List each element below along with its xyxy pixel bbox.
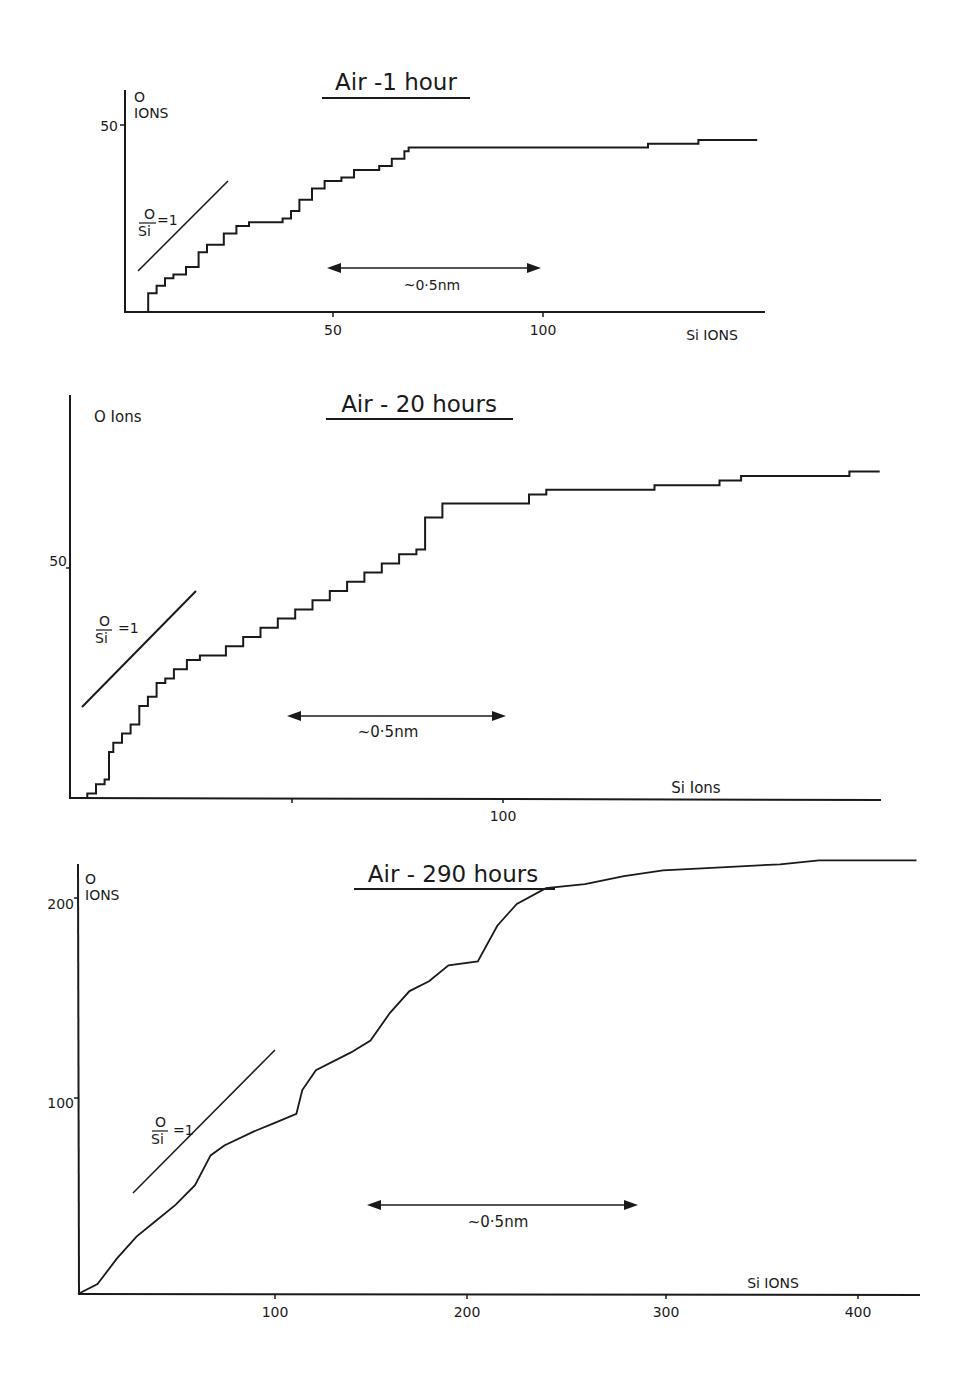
x-axis	[78, 1294, 920, 1295]
x-tick-label: 100	[262, 1304, 289, 1320]
y-tick-label: 100	[47, 1095, 74, 1111]
arrow-right-icon	[492, 711, 506, 721]
x-tick-label: 300	[653, 1304, 680, 1320]
y-tick-label: 50	[49, 553, 67, 569]
ratio-equals: =1	[157, 212, 178, 228]
y-axis-label: O	[85, 871, 96, 887]
figure-canvas: Air -1 hour O IONS 50 50 100 Si IONS O S…	[0, 0, 968, 1377]
panel-air-290-hours: Air - 290 hours O IONS 200 100 100 200 3…	[47, 860, 920, 1320]
arrow-left-icon	[367, 1200, 381, 1210]
x-axis-label: Si Ions	[671, 779, 721, 797]
chart-title: Air - 20 hours	[341, 391, 497, 417]
ratio-reference-line	[138, 181, 228, 271]
arrow-left-icon	[327, 263, 341, 273]
chart-title: Air -1 hour	[335, 69, 457, 95]
panel-air-20-hours: Air - 20 hours O Ions 50 100 Si Ions O S…	[49, 391, 881, 824]
ratio-denominator: Si	[138, 223, 151, 239]
y-axis-label: IONS	[85, 887, 120, 903]
x-tick-label: 200	[454, 1304, 481, 1320]
ratio-equals: =1	[118, 620, 139, 636]
ratio-numerator: O	[99, 613, 110, 629]
data-series-line	[79, 471, 880, 798]
y-axis-label: O	[134, 89, 145, 105]
arrow-right-icon	[624, 1200, 638, 1210]
y-axis	[78, 864, 79, 1295]
ratio-denominator: Si	[95, 630, 108, 646]
x-axis-label: Si IONS	[747, 1275, 799, 1291]
scale-label: ~0·5nm	[358, 723, 419, 741]
ratio-equals: =1	[173, 1122, 194, 1138]
x-tick-label: 400	[845, 1304, 872, 1320]
chart-title: Air - 290 hours	[368, 861, 538, 887]
scale-label: ~0·5nm	[404, 277, 461, 293]
y-tick-label: 50	[100, 118, 118, 134]
ratio-numerator: O	[144, 206, 155, 222]
ratio-denominator: Si	[151, 1131, 164, 1147]
x-axis	[69, 798, 881, 800]
arrow-left-icon	[287, 711, 301, 721]
x-tick-label: 50	[324, 322, 342, 338]
scale-label: ~0·5nm	[468, 1213, 529, 1231]
arrow-right-icon	[527, 263, 541, 273]
x-tick-label: 100	[490, 808, 517, 824]
x-tick-label: 100	[530, 322, 557, 338]
ratio-numerator: O	[155, 1114, 166, 1130]
y-axis-label: O Ions	[94, 408, 142, 426]
panel-air-1-hour: Air -1 hour O IONS 50 50 100 Si IONS O S…	[100, 69, 765, 343]
x-axis-label: Si IONS	[686, 327, 738, 343]
y-axis-label: IONS	[134, 105, 169, 121]
ratio-reference-line	[82, 591, 196, 707]
y-tick-label: 200	[47, 896, 74, 912]
